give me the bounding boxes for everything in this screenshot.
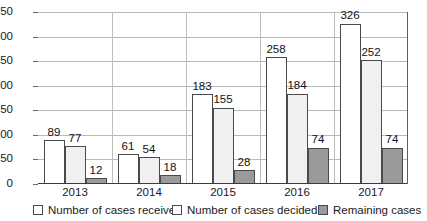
legend-swatch-received — [33, 205, 43, 215]
x-axis-tick-label-2017: 2017 — [334, 186, 408, 199]
bar-2015-decided[interactable] — [213, 108, 234, 184]
legend-item-received[interactable]: Number of cases received — [33, 203, 182, 217]
bar-group-2015: 18315528 — [186, 12, 260, 184]
bar-2013-received[interactable] — [44, 140, 65, 184]
y-axis-tick-label: 300 — [0, 31, 13, 43]
x-axis-line — [38, 183, 408, 184]
bar-group-2014: 615418 — [112, 12, 186, 184]
bar-2017-decided[interactable] — [361, 60, 382, 184]
bar-2014-received[interactable] — [118, 154, 139, 184]
bar-group-2017: 32625274 — [334, 12, 408, 184]
x-axis-tick-label-2014: 2014 — [112, 186, 186, 199]
legend-swatch-remaining — [318, 205, 328, 215]
bar-value-label: 155 — [206, 94, 240, 106]
grouped-bar-chart: 050100150200250300350 897712615418183155… — [0, 0, 427, 221]
bar-value-label: 326 — [333, 10, 367, 22]
bar-value-label: 258 — [259, 44, 293, 56]
bar-groups: 897712615418183155282581847432625274 — [38, 12, 408, 184]
bar-2016-remaining[interactable] — [308, 148, 329, 184]
group-separator — [260, 12, 261, 184]
x-axis-tick-labels: 20132014201520162017 — [38, 186, 408, 202]
x-axis-tick-label-2015: 2015 — [186, 186, 260, 199]
bar-value-label: 54 — [132, 144, 166, 156]
bar-value-label: 74 — [301, 134, 335, 146]
plot-area: 050100150200250300350 897712615418183155… — [38, 12, 408, 184]
y-axis-tick-label: 150 — [0, 104, 13, 116]
y-axis-tick-label: 350 — [0, 6, 13, 18]
bar-group-2016: 25818474 — [260, 12, 334, 184]
bar-value-label: 74 — [375, 134, 409, 146]
legend-item-remaining[interactable]: Remaining cases — [318, 203, 421, 217]
legend-label: Number of cases received — [48, 204, 182, 216]
y-axis-tick-label: 50 — [0, 153, 13, 165]
bar-value-label: 252 — [354, 47, 388, 59]
bar-value-label: 184 — [280, 80, 314, 92]
x-axis-tick-label-2013: 2013 — [38, 186, 112, 199]
bar-2016-received[interactable] — [266, 57, 287, 184]
bar-value-label: 28 — [227, 157, 261, 169]
group-separator — [334, 12, 335, 184]
chart-legend: Number of cases receivedNumber of cases … — [0, 203, 427, 221]
y-axis-tick-label: 250 — [0, 55, 13, 67]
group-separator — [112, 12, 113, 184]
bar-group-2013: 897712 — [38, 12, 112, 184]
y-axis-tick-mark — [33, 184, 38, 185]
y-axis-tick-label: 100 — [0, 129, 13, 141]
group-separator — [186, 12, 187, 184]
bar-value-label: 77 — [58, 133, 92, 145]
right-axis-line — [407, 12, 408, 184]
legend-label: Number of cases decided — [187, 204, 317, 216]
bar-value-label: 18 — [153, 162, 187, 174]
legend-item-decided[interactable]: Number of cases decided — [172, 203, 317, 217]
legend-label: Remaining cases — [333, 204, 421, 216]
bar-value-label: 183 — [185, 81, 219, 93]
bar-value-label: 12 — [79, 165, 113, 177]
bar-2017-remaining[interactable] — [382, 148, 403, 184]
y-axis-tick-label: 0 — [0, 178, 13, 190]
legend-swatch-decided — [172, 205, 182, 215]
y-axis-tick-label: 200 — [0, 80, 13, 92]
bar-2015-received[interactable] — [192, 94, 213, 184]
x-axis-tick-label-2016: 2016 — [260, 186, 334, 199]
